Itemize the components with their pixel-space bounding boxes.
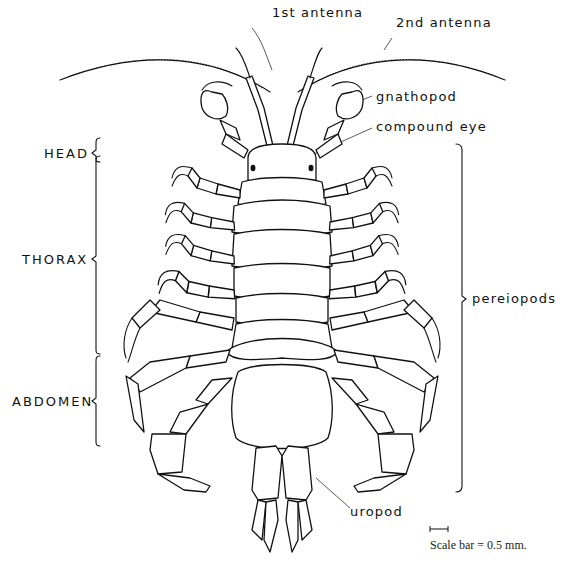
antenna1-leader <box>252 28 272 70</box>
label-abdomen: ABDOMEN <box>12 395 93 408</box>
pereiopods-right <box>324 166 440 492</box>
first-antenna <box>236 48 322 150</box>
label-thorax: THORAX <box>22 253 88 266</box>
scale-bar <box>430 526 448 532</box>
label-head: HEAD <box>44 147 89 160</box>
scale-bar-caption: Scale bar = 0.5 mm. <box>430 538 527 553</box>
uropods <box>252 446 312 552</box>
label-pereiopods: pereiopods <box>472 292 556 305</box>
label-gnathopod: gnathopod <box>376 90 457 103</box>
thorax-segments <box>226 178 338 360</box>
abdomen-plate <box>232 365 333 449</box>
gnathopod-left <box>201 82 248 158</box>
label-1st-antenna: 1st antenna <box>272 6 363 19</box>
pereiopods-brace <box>456 144 466 492</box>
amphipod-illustration <box>0 0 564 566</box>
label-uropod: uropod <box>350 505 403 518</box>
second-antenna <box>60 59 505 92</box>
uropod-leader <box>316 478 350 508</box>
pereiopods-left <box>124 166 240 492</box>
label-2nd-antenna: 2nd antenna <box>396 16 492 29</box>
amphipod-diagram: 1st antenna 2nd antenna gnathopod compou… <box>0 0 564 566</box>
antenna2-leader <box>384 38 392 50</box>
gnathopod-right <box>316 82 363 158</box>
label-compound-eye: compound eye <box>376 120 487 133</box>
compound-eye-right <box>309 165 314 171</box>
compound-eye-left <box>251 165 256 171</box>
